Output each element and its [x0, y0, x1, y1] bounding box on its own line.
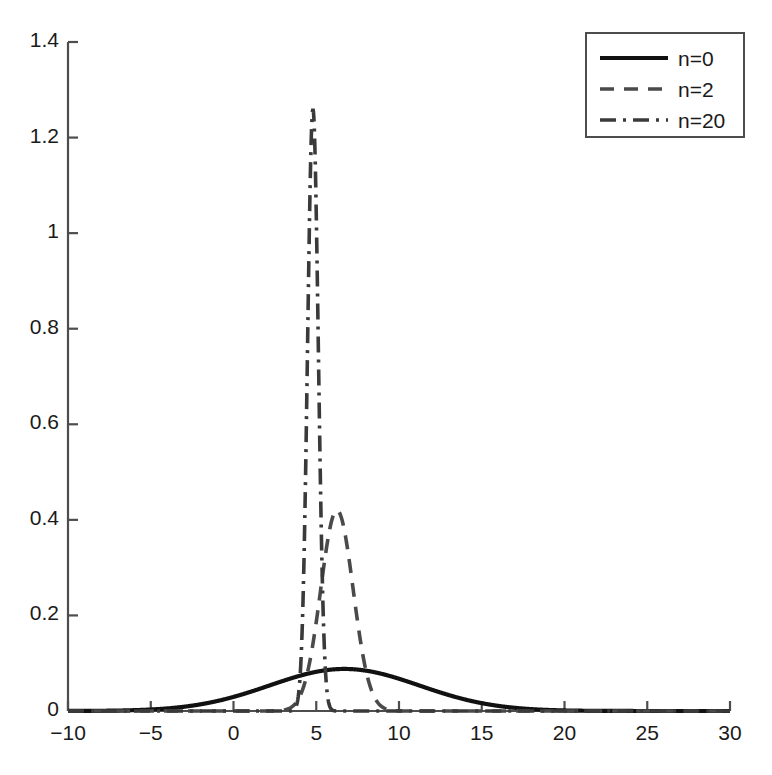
y-tick-label: 0.6 [30, 410, 59, 434]
legend: n=0n=2n=20 [586, 33, 744, 137]
x-tick-label: 20 [525, 721, 605, 745]
legend-label-n0: n=0 [678, 47, 714, 70]
x-tick-label: 30 [690, 721, 770, 745]
legend-label-n20: n=20 [678, 109, 725, 132]
y-tick-label: 0 [47, 697, 59, 721]
y-tick-label: 1.4 [30, 28, 59, 52]
x-tick-label: 25 [607, 721, 687, 745]
x-tick-label: −10 [28, 721, 108, 745]
x-tick-label: 15 [442, 721, 522, 745]
figure-canvas: n=0n=2n=20 00.20.40.60.811.21.4 −10−5051… [0, 0, 772, 775]
y-tick-label: 0.4 [30, 506, 59, 530]
legend-label-n2: n=2 [678, 78, 714, 101]
axes-group [68, 42, 730, 711]
x-tick-label: 0 [194, 721, 274, 745]
y-tick-label: 0.8 [30, 315, 59, 339]
series-line-n20 [68, 109, 730, 711]
y-tick-label: 1 [47, 219, 59, 243]
data-series-layer [68, 109, 730, 711]
y-tick-label: 1.2 [30, 124, 59, 148]
y-axis-ticks [68, 42, 78, 711]
chart-plot-area: n=0n=2n=20 [0, 0, 772, 775]
x-tick-label: 10 [359, 721, 439, 745]
x-tick-label: −5 [111, 721, 191, 745]
x-tick-label: 5 [276, 721, 356, 745]
y-tick-label: 0.2 [30, 601, 59, 625]
